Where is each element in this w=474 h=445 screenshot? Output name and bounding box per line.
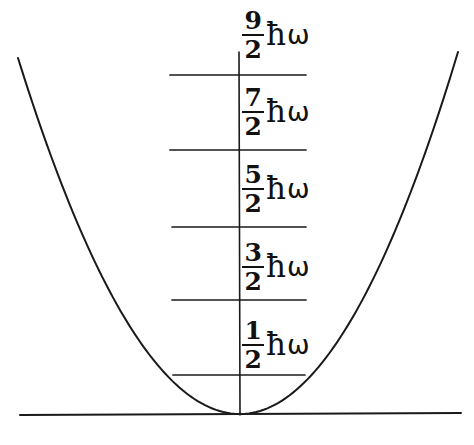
- level-fraction: 72: [242, 85, 264, 139]
- energy-level-label: 12ħω: [242, 318, 310, 372]
- energy-level-label: 92ħω: [242, 8, 310, 62]
- level-fraction: 52: [242, 162, 264, 216]
- energy-axis: [239, 52, 240, 415]
- fraction-denominator: 2: [243, 268, 264, 294]
- fraction-denominator: 2: [243, 113, 264, 139]
- fraction-numerator: 9: [243, 8, 264, 34]
- omega-symbol: ω: [287, 253, 310, 280]
- fraction-denominator: 2: [243, 190, 264, 216]
- diagram-canvas: [0, 0, 474, 445]
- fraction-denominator: 2: [243, 346, 264, 372]
- hbar-symbol: ħ: [266, 96, 286, 127]
- energy-level-label: 72ħω: [242, 85, 310, 139]
- fraction-numerator: 5: [243, 162, 264, 188]
- level-fraction: 92: [242, 8, 264, 62]
- hbar-symbol: ħ: [266, 19, 286, 50]
- energy-level-label: 32ħω: [242, 240, 310, 294]
- hbar-symbol: ħ: [266, 329, 286, 360]
- fraction-numerator: 1: [243, 318, 264, 344]
- omega-symbol: ω: [287, 21, 310, 48]
- hbar-symbol: ħ: [266, 251, 286, 282]
- omega-symbol: ω: [287, 98, 310, 125]
- hbar-symbol: ħ: [266, 173, 286, 204]
- potential-well-parabola: [18, 52, 458, 414]
- fraction-denominator: 2: [243, 36, 264, 62]
- fraction-numerator: 7: [243, 85, 264, 111]
- omega-symbol: ω: [287, 175, 310, 202]
- level-fraction: 12: [242, 318, 264, 372]
- omega-symbol: ω: [287, 331, 310, 358]
- fraction-numerator: 3: [243, 240, 264, 266]
- level-fraction: 32: [242, 240, 264, 294]
- energy-level-label: 52ħω: [242, 162, 310, 216]
- harmonic-oscillator-figure: 92ħω72ħω52ħω32ħω12ħω: [0, 0, 474, 445]
